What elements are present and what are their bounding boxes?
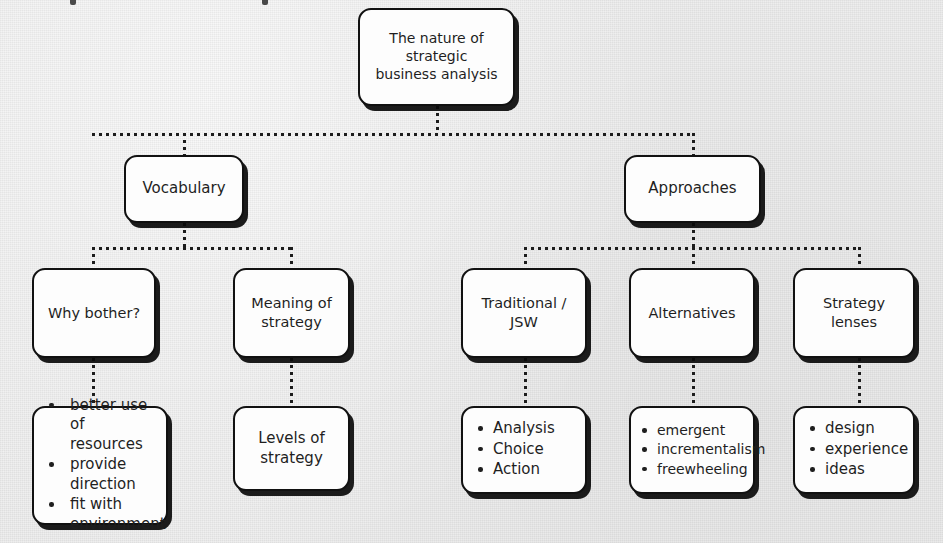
list-item: Analysis [493, 419, 579, 439]
connector-to-vocabulary [183, 133, 186, 155]
node-traditional-jsw[interactable]: Traditional / JSW [461, 268, 587, 358]
connector-vocabulary-stub [183, 223, 186, 248]
node-strategy-lenses[interactable]: Strategy lenses [793, 268, 915, 358]
list-item: ideas [825, 460, 907, 480]
list-item: emergent [657, 421, 747, 439]
cropped-title-fragment [262, 0, 268, 5]
list-item: Choice [493, 440, 579, 460]
node-meaning-of-strategy-label: Meaning of strategy [243, 294, 340, 331]
connector-vocabulary-bus [92, 247, 292, 250]
node-strategy-lenses-label: Strategy lenses [795, 294, 913, 331]
connector-to-why-bother [92, 247, 95, 268]
connector-to-meaning-of-strategy [290, 247, 293, 268]
node-why-bother-label: Why bother? [40, 304, 148, 323]
list-item: better use of resources [64, 396, 160, 455]
node-traditional-jsw-label: Traditional / JSW [463, 294, 585, 331]
node-alternatives-label: Alternatives [640, 304, 743, 323]
list-item: design [825, 419, 907, 439]
connector-to-strategy-lenses [858, 247, 861, 268]
connector-to-traditional [524, 247, 527, 268]
node-meaning-of-strategy[interactable]: Meaning of strategy [233, 268, 350, 358]
connector-traditional-to-points [524, 358, 527, 406]
connector-alternatives-to-points [692, 358, 695, 406]
node-traditional-points[interactable]: Analysis Choice Action [461, 406, 587, 494]
diagram-canvas: The nature of strategic business analysi… [0, 0, 943, 543]
list-item: fit with environment [64, 495, 160, 534]
node-approaches-label: Approaches [640, 179, 744, 198]
node-why-bother[interactable]: Why bother? [32, 268, 156, 358]
alternatives-point-list: emergent incrementalism freewheeling [631, 421, 753, 479]
traditional-point-list: Analysis Choice Action [463, 419, 585, 481]
node-vocabulary[interactable]: Vocabulary [124, 155, 244, 223]
list-item: experience [825, 440, 907, 460]
node-root[interactable]: The nature of strategic business analysi… [358, 8, 515, 106]
connector-meaning-to-levels [290, 358, 293, 406]
list-item: incrementalism [657, 440, 747, 458]
connector-to-approaches [692, 133, 695, 155]
node-vocabulary-label: Vocabulary [134, 179, 233, 198]
node-approaches[interactable]: Approaches [624, 155, 761, 223]
strategy-lenses-point-list: design experience ideas [795, 419, 913, 481]
node-alternatives[interactable]: Alternatives [629, 268, 755, 358]
node-alternatives-points[interactable]: emergent incrementalism freewheeling [629, 406, 755, 494]
node-root-label: The nature of strategic business analysi… [367, 30, 505, 84]
node-levels-of-strategy[interactable]: Levels of strategy [233, 406, 350, 491]
cropped-title-fragment [70, 0, 76, 5]
node-levels-of-strategy-label: Levels of strategy [250, 429, 333, 467]
node-strategy-lenses-points[interactable]: design experience ideas [793, 406, 915, 494]
node-why-bother-points[interactable]: better use of resources provide directio… [32, 406, 168, 525]
why-bother-point-list: better use of resources provide directio… [34, 396, 166, 536]
connector-approaches-stub [692, 223, 695, 248]
connector-root-stub [436, 106, 439, 134]
connector-to-alternatives [692, 247, 695, 268]
list-item: provide direction [64, 455, 160, 494]
connector-lenses-to-points [858, 358, 861, 406]
list-item: freewheeling [657, 460, 747, 478]
list-item: Action [493, 460, 579, 480]
